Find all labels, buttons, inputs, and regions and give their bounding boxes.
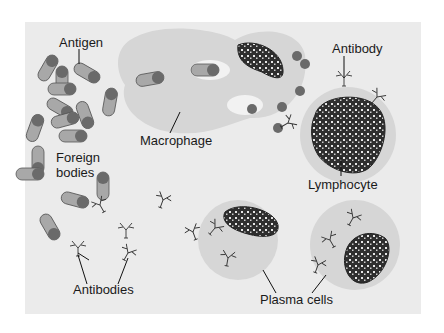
label-antigen: Antigen	[59, 36, 103, 50]
label-bodies: bodies	[56, 166, 94, 180]
label-antibody: Antibody	[332, 42, 383, 56]
label-antibodies: Antibodies	[73, 283, 134, 297]
label-plasma-cells: Plasma cells	[260, 293, 333, 307]
label-macrophage: Macrophage	[140, 134, 212, 148]
label-foreign: Foreign	[56, 151, 100, 165]
phagosome	[227, 95, 263, 115]
label-lymphocyte: Lymphocyte	[308, 178, 378, 192]
